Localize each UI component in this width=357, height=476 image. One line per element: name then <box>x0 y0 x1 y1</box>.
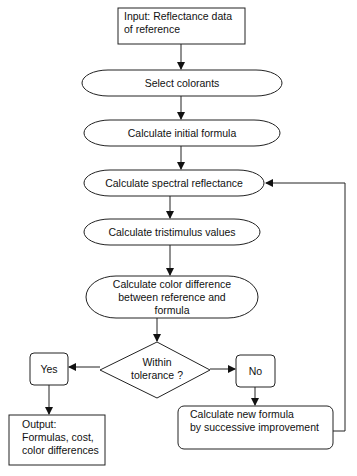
color-difference-line1: Calculate color difference <box>113 278 231 291</box>
decision-node: Within tolerance ? <box>110 352 204 386</box>
input-node: Input: Reflectance data of reference <box>124 10 244 42</box>
no-label: No <box>249 365 262 378</box>
new-formula-node: Calculate new formula by successive impr… <box>190 408 332 447</box>
new-formula-line1: Calculate new formula <box>190 408 294 421</box>
output-line3: color differences <box>22 444 99 457</box>
color-difference-node: Calculate color difference between refer… <box>86 276 258 318</box>
select-colorants-label: Select colorants <box>145 77 220 90</box>
initial-formula-label: Calculate initial formula <box>128 127 237 140</box>
yes-label: Yes <box>40 363 57 376</box>
tristimulus-node: Calculate tristimulus values <box>84 219 260 245</box>
output-line1: Output: <box>22 418 56 431</box>
initial-formula-node: Calculate initial formula <box>84 120 280 146</box>
select-colorants-node: Select colorants <box>82 70 282 96</box>
decision-line1: Within <box>142 356 171 369</box>
input-label-line2: of reference <box>124 23 180 36</box>
decision-line2: tolerance ? <box>131 369 183 382</box>
output-line2: Formulas, cost, <box>22 431 94 444</box>
color-difference-line2: between reference and <box>118 291 225 304</box>
color-difference-line3: formula <box>154 304 189 317</box>
spectral-reflectance-node: Calculate spectral reflectance <box>84 170 264 196</box>
yes-node: Yes <box>30 353 68 385</box>
new-formula-line2: by successive improvement <box>190 421 319 434</box>
output-node: Output: Formulas, cost, color difference… <box>22 418 106 462</box>
tristimulus-label: Calculate tristimulus values <box>108 226 235 239</box>
spectral-reflectance-label: Calculate spectral reflectance <box>105 177 243 190</box>
no-node: No <box>236 355 275 387</box>
input-label-line1: Input: Reflectance data <box>124 10 232 23</box>
